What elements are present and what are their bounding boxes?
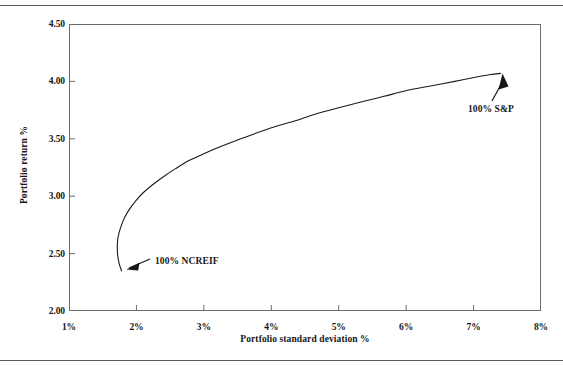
x-axis-title: Portfolio standard deviation % (69, 334, 541, 344)
x-axis-tick-label: 4% (251, 316, 291, 334)
x-axis-tick-label: 8% (521, 316, 561, 334)
x-axis-tick-label-text: 6% (399, 322, 413, 332)
y-axis-tick-label-text: 2.50 (31, 249, 65, 259)
ncreif-arrow-icon (127, 259, 151, 271)
x-axis-tick-label-text: 8% (534, 322, 548, 332)
annotation-label-ncreif: 100% NCREIF (155, 256, 219, 266)
x-axis-tick-label: 6% (386, 316, 426, 334)
x-axis-tick-label-text: 5% (332, 322, 346, 332)
annotation-label-sp: 100% S&P (468, 104, 514, 114)
efficient-frontier-curve (117, 73, 500, 270)
x-axis-tick-label-text: 3% (197, 322, 211, 332)
x-axis-tick-label: 7% (454, 316, 494, 334)
sp-arrow-icon (492, 74, 509, 102)
x-axis-tick-label: 3% (184, 316, 224, 334)
y-axis-tick-label-text: 2.00 (31, 306, 65, 316)
x-axis-tick-label-text: 2% (129, 322, 143, 332)
x-axis-tick-marks (136, 305, 473, 311)
y-axis-tick-label-text: 3.50 (31, 134, 65, 144)
y-axis-tick-label: 3.50 (27, 134, 65, 144)
x-axis-tick-label-text: 1% (62, 322, 76, 332)
y-axis-tick-marks (69, 81, 75, 253)
x-axis-tick-label: 2% (116, 316, 156, 334)
y-axis-tick-label: 2.50 (27, 249, 65, 259)
figure-container: 2.002.503.003.504.004.50 1%2%3%4%5%6%7%8… (0, 0, 563, 368)
chart-svg (0, 0, 563, 368)
x-axis-tick-label-text: 7% (467, 322, 481, 332)
y-axis-tick-label: 2.00 (27, 306, 65, 316)
x-axis-tick-label: 5% (319, 316, 359, 334)
y-axis-tick-label: 4.50 (27, 19, 65, 29)
y-axis-tick-label-text: 4.00 (31, 76, 65, 86)
y-axis-tick-label: 4.00 (27, 76, 65, 86)
y-axis-tick-label-text: 4.50 (31, 19, 65, 29)
y-axis-title: Portfolio return % (19, 95, 29, 235)
x-axis-tick-label: 1% (49, 316, 89, 334)
y-axis-tick-label: 3.00 (27, 191, 65, 201)
y-axis-tick-label-text: 3.00 (31, 191, 65, 201)
x-axis-tick-label-text: 4% (264, 322, 278, 332)
